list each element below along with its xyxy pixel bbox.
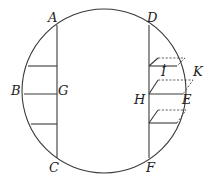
slant-lower: [149, 110, 158, 123]
label-f: F: [145, 160, 156, 175]
label-i: I: [160, 64, 167, 79]
label-a: A: [47, 10, 57, 25]
slant-middle: [149, 80, 158, 94]
slant-upper: [149, 58, 158, 66]
dashed-plane-lower: [158, 110, 186, 123]
label-g: G: [58, 83, 68, 98]
label-h: H: [133, 92, 146, 107]
outer-circle: [22, 9, 186, 173]
label-d: D: [146, 10, 158, 25]
circle-diagram: A D B G I K H E C F: [0, 0, 213, 183]
label-e: E: [181, 92, 192, 107]
label-c: C: [49, 160, 59, 175]
label-b: B: [10, 83, 21, 98]
label-k: K: [192, 64, 204, 79]
